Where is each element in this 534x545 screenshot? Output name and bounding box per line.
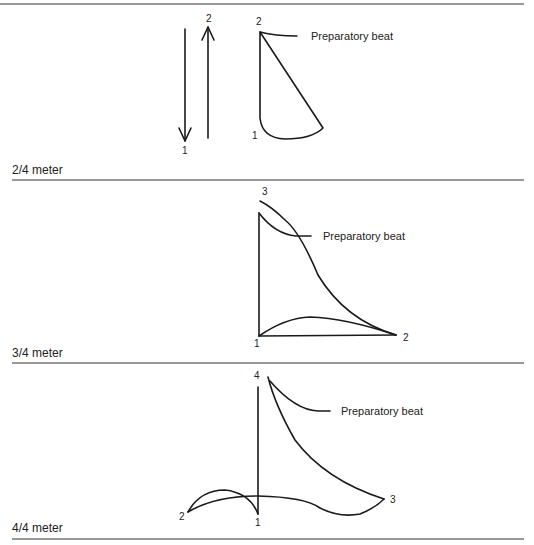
meter-label: 4/4 meter <box>12 521 63 535</box>
beat-label-2: 2 <box>179 511 185 522</box>
beat-label-3: 3 <box>390 494 396 505</box>
preparatory-beat-path <box>259 213 311 236</box>
beat-label-top: 2 <box>256 16 262 27</box>
meter-label: 3/4 meter <box>12 346 63 360</box>
panel-4-4-meter: 4 2 1 3 Preparatory beat 4/4 meter <box>12 370 524 539</box>
pattern-2-4-path <box>260 32 323 139</box>
meter-label: 2/4 meter <box>12 163 63 177</box>
beat-label-1: 1 <box>255 517 261 528</box>
left-arc-path <box>188 490 258 514</box>
panel-2-4-meter: 1 2 2 1 Preparatory beat 2/4 meter <box>12 13 524 180</box>
preparatory-beat-label: Preparatory beat <box>341 405 423 417</box>
preparatory-beat-label: Preparatory beat <box>323 230 405 242</box>
cross-curve-path <box>188 496 384 515</box>
conducting-patterns-diagram: 1 2 2 1 Preparatory beat 2/4 meter 3 1 2… <box>0 0 534 545</box>
beat-label-2: 2 <box>403 332 409 343</box>
preparatory-beat-label: Preparatory beat <box>311 30 393 42</box>
return-curve-path <box>260 201 396 335</box>
beat-label-3: 3 <box>262 186 268 197</box>
beat-label-4: 4 <box>254 370 260 381</box>
beat-label-1: 1 <box>182 145 188 156</box>
horizontal-stroke <box>259 335 396 336</box>
beat-label-bottom: 1 <box>252 130 258 141</box>
panel-3-4-meter: 3 1 2 Preparatory beat 3/4 meter <box>12 186 524 363</box>
return-curve-path <box>268 377 384 499</box>
beat-label-2: 2 <box>206 13 212 24</box>
beat-label-1: 1 <box>254 338 260 349</box>
preparatory-beat-path <box>260 32 297 36</box>
